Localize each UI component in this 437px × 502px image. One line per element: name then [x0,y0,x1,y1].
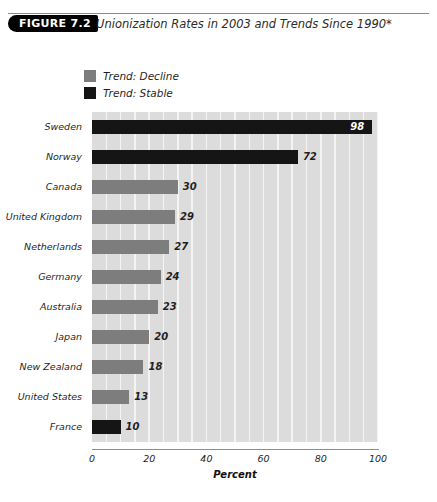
bar-value-label: 98 [350,120,364,134]
x-tick-label: 0 [72,453,112,464]
chart-plot-wrapper: SwedenNorwayCanadaUnited KingdomNetherla… [0,112,437,457]
gridline [320,112,322,442]
figure-header: FIGURE 7.2 Unionization Rates in 2003 an… [0,13,437,35]
plot-area: 9872302927242320181310 [92,112,378,442]
bar-australia [92,300,158,314]
bar-france [92,420,121,434]
y-axis-label-norway: Norway [0,151,82,163]
y-axis-label-netherlands: Netherlands [0,241,82,253]
gridline [349,112,351,442]
bar-value-label: 23 [163,300,177,314]
bar-value-label: 13 [134,390,148,404]
bar-sweden [92,120,372,134]
bar-value-label: 24 [166,270,180,284]
x-axis-title: Percent [92,469,378,480]
header-divider [8,13,429,14]
gridline [334,112,336,442]
legend-swatch-decline [84,70,96,82]
legend-label-stable: Trend: Stable [103,87,173,99]
figure-title: Unionization Rates in 2003 and Trends Si… [96,16,392,32]
bar-value-label: 10 [126,420,140,434]
bar-united-states [92,390,129,404]
y-axis-label-japan: Japan [0,331,82,343]
x-axis-line [92,449,379,450]
bar-value-label: 29 [180,210,194,224]
x-tick-label: 60 [244,453,284,464]
x-tick-label: 20 [129,453,169,464]
bar-norway [92,150,298,164]
x-tick-label: 80 [301,453,341,464]
y-axis-label-france: France [0,421,82,433]
bar-canada [92,180,178,194]
bar-value-label: 27 [174,240,188,254]
legend-item-stable: Trend: Stable [84,85,284,100]
y-axis-label-united-kingdom: United Kingdom [0,211,82,223]
y-axis-label-new-zealand: New Zealand [0,361,82,373]
y-axis-label-canada: Canada [0,181,82,193]
y-axis-label-australia: Australia [0,301,82,313]
bar-value-label: 72 [303,150,317,164]
figure-number-badge: FIGURE 7.2 [8,15,98,32]
x-tick-label: 100 [358,453,398,464]
bar-value-label: 18 [148,360,162,374]
legend-item-decline: Trend: Decline [84,68,284,83]
x-axis-tick-labels: 020406080100 [0,453,437,467]
chart-legend: Trend: DeclineTrend: Stable [84,68,284,102]
y-axis-label-germany: Germany [0,271,82,283]
y-axis-category-labels: SwedenNorwayCanadaUnited KingdomNetherla… [0,112,88,442]
bar-united-kingdom [92,210,175,224]
bar-japan [92,330,149,344]
gridline [377,112,378,442]
legend-label-decline: Trend: Decline [103,70,179,82]
y-axis-label-united-states: United States [0,391,82,403]
bar-germany [92,270,161,284]
bar-value-label: 20 [154,330,168,344]
y-axis-label-sweden: Sweden [0,121,82,133]
legend-swatch-stable [84,87,96,99]
bar-netherlands [92,240,169,254]
x-tick-label: 40 [186,453,226,464]
bar-value-label: 30 [183,180,197,194]
bar-new-zealand [92,360,143,374]
gridline [363,112,365,442]
